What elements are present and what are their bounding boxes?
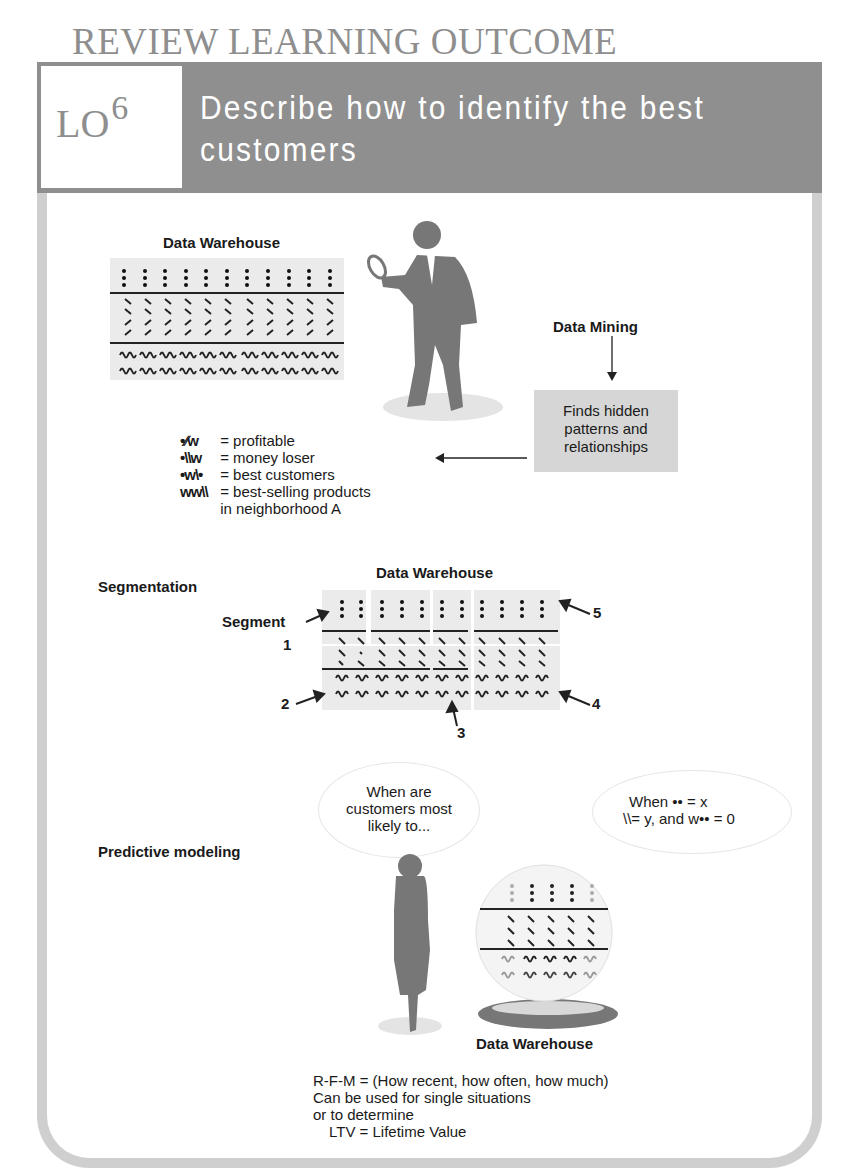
note-line: or to determine: [313, 1106, 609, 1123]
legend-symbol: •w\•: [180, 466, 216, 483]
legend-symbol: •∕∕w: [180, 432, 216, 449]
legend-item: •∕∕w = profitable: [180, 432, 371, 449]
note-line: Can be used for single situations: [313, 1089, 609, 1106]
man-magnifier-illustration: [355, 215, 505, 425]
question-bubble: When are customers most likely to...: [318, 762, 480, 858]
legend-item: •\\w = money loser: [180, 449, 371, 466]
warehouse-label-segmentation: Data Warehouse: [376, 564, 493, 581]
note-line: LTV = Lifetime Value: [313, 1123, 609, 1140]
warehouse-label-crystal: Data Warehouse: [476, 1035, 593, 1052]
woman-silhouette-illustration: [370, 850, 450, 1040]
legend-meaning: in neighborhood A: [220, 500, 341, 517]
legend-meaning: = best customers: [220, 466, 335, 483]
legend-meaning: = money loser: [220, 449, 315, 466]
legend-meaning: = best-selling products: [220, 483, 371, 500]
warehouse-table-top: [110, 258, 344, 380]
bubble-line: When are: [319, 783, 479, 800]
answer-bubble: When •• = x \\= y, and w•• = 0: [592, 770, 792, 854]
lo-text: LO: [56, 101, 109, 146]
legend-meaning: = profitable: [220, 432, 295, 449]
slash-row: [110, 294, 344, 338]
section-heading: REVIEW LEARNING OUTCOME: [72, 22, 617, 62]
arrow-left-icon: [435, 451, 527, 465]
note-line: R-F-M = (How recent, how often, how much…: [313, 1072, 609, 1089]
legend-item: in neighborhood A: [180, 500, 371, 517]
lo-number: 6: [111, 89, 128, 126]
bubble-line: likely to...: [319, 817, 479, 834]
lo-label: LO6: [56, 100, 128, 147]
arrow-down-icon: [605, 336, 619, 382]
bubble-line: customers most: [319, 800, 479, 817]
bubble-line: When •• = x: [593, 793, 791, 810]
legend-symbol: •\\w: [180, 449, 216, 466]
result-line: patterns and: [534, 420, 678, 438]
legend-symbol: ww\\: [180, 483, 216, 500]
warehouse-label-top: Data Warehouse: [163, 234, 280, 251]
legend: •∕∕w = profitable •\\w = money loser •w\…: [180, 432, 371, 517]
predictive-modeling-label: Predictive modeling: [98, 843, 241, 860]
bubble-line: \\= y, and w•• = 0: [593, 810, 791, 827]
legend-item: •w\• = best customers: [180, 466, 371, 483]
legend-item: ww\\ = best-selling products: [180, 483, 371, 500]
data-mining-label: Data Mining: [553, 318, 638, 335]
rfm-notes: R-F-M = (How recent, how often, how much…: [313, 1072, 609, 1140]
result-line: Finds hidden: [534, 402, 678, 420]
result-box: Finds hidden patterns and relationships: [534, 390, 678, 472]
segmentation-label: Segmentation: [98, 578, 197, 595]
dots-row: [110, 258, 344, 292]
segmented-warehouse-diagram: [260, 590, 600, 730]
result-line: relationships: [534, 438, 678, 456]
wave-row: [110, 344, 344, 384]
page-title: Describe how to identify the best custom…: [200, 86, 737, 170]
crystal-ball-warehouse: [468, 858, 628, 1033]
